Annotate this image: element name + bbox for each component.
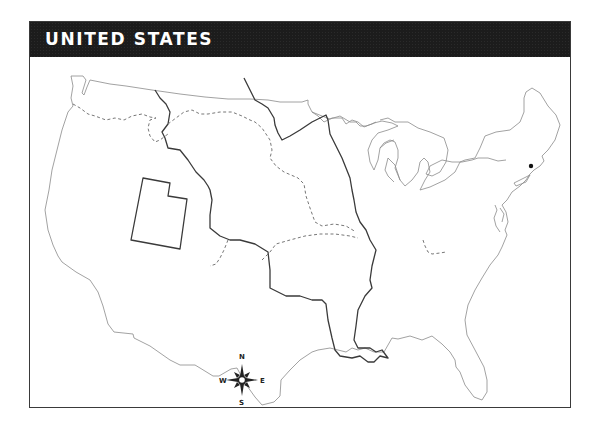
us-map: N S W E: [0, 0, 595, 427]
compass-west-label: W: [219, 377, 227, 385]
trail-east: [423, 240, 446, 254]
compass-south-label: S: [239, 399, 244, 407]
trail-southwest: [210, 240, 228, 266]
lake-superior: [312, 112, 376, 126]
trail-north: [168, 110, 356, 232]
utah-outline: [131, 178, 187, 249]
great-lakes: [380, 118, 448, 182]
lake-erie: [426, 158, 506, 174]
trail-oregon: [73, 104, 168, 142]
compass-east-label: E: [260, 377, 265, 385]
chesapeake-bay: [494, 205, 504, 232]
trail-central: [262, 234, 358, 260]
location-marker: [529, 164, 533, 168]
us-coastline: [45, 76, 560, 405]
compass-north-label: N: [239, 353, 245, 361]
